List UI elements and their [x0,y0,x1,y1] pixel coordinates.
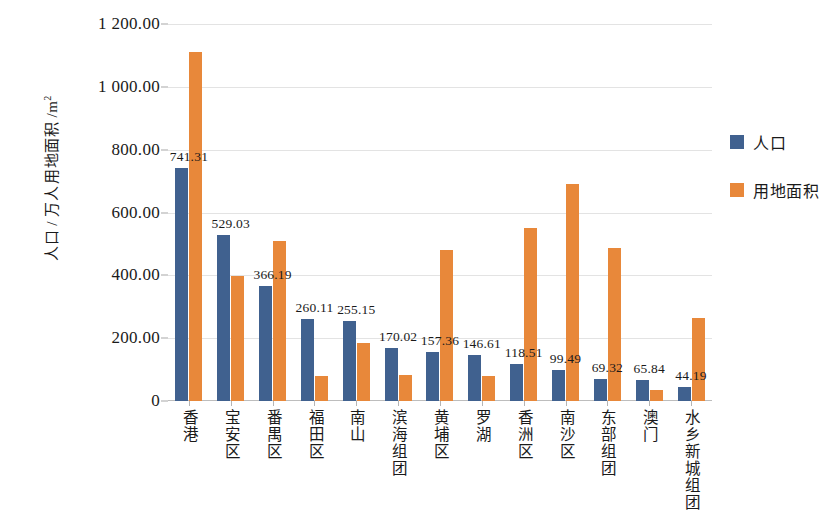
x-axis-category-labels: 香港宝安区番禺区福田区南山滨海组团黄埔区罗湖香洲区南沙区东部组团澳门水乡新城组团 [168,409,712,528]
bar-chart: 人口 / 万人 用地面积 /m2 1 200.001 000.00800.006… [0,0,840,528]
legend-item[interactable]: 用地面积 [730,178,819,202]
y-axis-tick-mark [161,86,168,87]
legend-swatch [730,183,744,197]
x-axis-category-label: 水乡新城组团 [670,409,712,528]
bar-group[interactable]: 741.31 [168,24,210,401]
x-axis-category-label: 福田区 [294,409,336,528]
bar-group[interactable]: 170.02 [377,24,419,401]
bar-group[interactable]: 69.32 [586,24,628,401]
x-axis-category-label-text: 澳门 [641,409,657,528]
bar-group[interactable]: 366.19 [252,24,294,401]
x-axis-category-label-text: 福田区 [306,409,322,528]
x-axis-category-label: 东部组团 [586,409,628,528]
x-axis-category-label-text: 南沙区 [557,409,573,528]
bar-data-label: 44.19 [675,368,706,384]
bar-population[interactable] [636,380,649,401]
bar-population[interactable] [385,348,398,401]
bar-population[interactable] [343,321,356,401]
y-axis-title: 人口 / 万人 用地面积 /m2 [24,78,80,278]
bar-land-area[interactable] [692,318,705,401]
x-axis-category-label-text: 罗湖 [474,409,490,528]
bar-data-label: 260.11 [296,300,334,316]
bar-population[interactable] [175,168,188,401]
y-axis-tick-label: 600.00 [111,203,160,223]
y-axis-tick-mark [161,401,168,402]
y-axis-title-line-2: 用地面积 /m2 [42,95,62,184]
x-axis-category-label-text: 滨海组团 [390,409,406,528]
bar-group[interactable]: 157.36 [419,24,461,401]
bar-population[interactable] [259,286,272,401]
bar-land-area[interactable] [189,52,202,401]
y-axis-tick-mark [161,338,168,339]
bar-group[interactable]: 44.19 [670,24,712,401]
bar-land-area[interactable] [399,375,412,401]
bar-population[interactable] [678,387,691,401]
y-axis-tick-label: 400.00 [111,265,160,285]
y-axis-tick-mark [161,24,168,25]
x-axis-category-label: 番禺区 [252,409,294,528]
y-axis-tick-label: 0 [151,391,160,411]
y-axis-tick-mark [161,149,168,150]
bar-land-area[interactable] [273,241,286,401]
y-axis-title-line-1: 人口 / 万人 [43,186,62,261]
bar-land-area[interactable] [608,248,621,401]
x-axis-tick-mark [649,401,650,406]
bar-data-label: 118.51 [505,345,543,361]
bar-group[interactable]: 99.49 [545,24,587,401]
bar-population[interactable] [510,364,523,401]
y-axis-tick-label: 1 200.00 [98,14,160,34]
x-axis-tick-mark [356,401,357,406]
x-axis-category-label: 黄埔区 [419,409,461,528]
bar-group[interactable]: 118.51 [503,24,545,401]
legend-item[interactable]: 人口 [730,130,819,154]
x-axis-tick-mark [231,401,232,406]
bar-population[interactable] [301,319,314,401]
x-axis-category-label: 滨海组团 [377,409,419,528]
bar-group[interactable]: 260.11 [294,24,336,401]
y-axis-tick-label: 800.00 [111,140,160,160]
x-axis-tick-mark [440,401,441,406]
x-axis-category-label: 南沙区 [545,409,587,528]
bar-groups: 741.31529.03366.19260.11255.15170.02157.… [168,24,712,401]
bar-data-label: 170.02 [379,329,417,345]
x-axis-category-label-text: 黄埔区 [432,409,448,528]
x-axis-category-label: 罗湖 [461,409,503,528]
x-axis-tick-mark [273,401,274,406]
legend-label: 用地面积 [753,178,819,202]
bar-population[interactable] [468,355,481,401]
bar-land-area[interactable] [524,228,537,401]
x-axis-tick-mark [524,401,525,406]
bar-data-label: 157.36 [421,333,459,349]
y-axis-tick-mark [161,275,168,276]
bar-land-area[interactable] [315,376,328,401]
y-axis-tick-label: 1 000.00 [98,77,160,97]
x-axis-category-label-text: 香洲区 [516,409,532,528]
bar-land-area[interactable] [231,276,244,401]
bar-data-label: 529.03 [212,216,250,232]
bar-population[interactable] [594,379,607,401]
bar-land-area[interactable] [357,343,370,401]
bar-population[interactable] [217,235,230,401]
x-axis-category-label-text: 番禺区 [264,409,280,528]
bar-land-area[interactable] [650,390,663,401]
x-axis-category-label: 香港 [168,409,210,528]
y-axis-title-superscript: 2 [42,95,53,101]
bar-land-area[interactable] [482,376,495,401]
x-axis-category-label: 香洲区 [503,409,545,528]
bar-data-label: 99.49 [550,351,581,367]
x-axis-category-label: 宝安区 [210,409,252,528]
bar-population[interactable] [552,370,565,401]
bar-group[interactable]: 255.15 [335,24,377,401]
bar-group[interactable]: 529.03 [210,24,252,401]
bar-group[interactable]: 146.61 [461,24,503,401]
bar-data-label: 146.61 [463,336,501,352]
bar-group[interactable]: 65.84 [628,24,670,401]
x-axis-category-label-text: 南山 [348,409,364,528]
x-axis-category-label: 南山 [335,409,377,528]
bar-land-area[interactable] [440,250,453,401]
bar-land-area[interactable] [566,184,579,401]
bar-population[interactable] [426,352,439,401]
x-axis-tick-mark [314,401,315,406]
bar-data-label: 69.32 [592,360,623,376]
x-axis-tick-mark [607,401,608,406]
